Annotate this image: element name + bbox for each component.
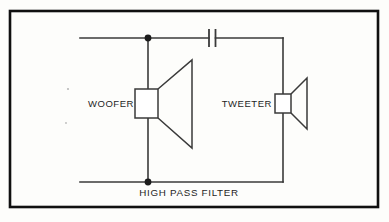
figure-root: WOOFER TWEETER HIGH PASS FILTER	[0, 0, 389, 222]
tweeter-label: TWEETER	[222, 98, 272, 109]
bottom-junction-dot	[145, 179, 152, 186]
woofer-magnet-box	[135, 89, 158, 118]
tweeter-magnet-box	[275, 94, 291, 113]
woofer-cone	[158, 60, 192, 148]
scan-speck	[67, 88, 69, 90]
circuit-diagram-svg: WOOFER TWEETER HIGH PASS FILTER	[0, 0, 389, 222]
tweeter-cone	[291, 78, 307, 129]
scan-speck	[65, 122, 67, 124]
figure-caption: HIGH PASS FILTER	[139, 187, 239, 198]
top-junction-dot	[145, 35, 152, 42]
figure-border	[10, 11, 378, 207]
woofer-label: WOOFER	[88, 98, 134, 109]
